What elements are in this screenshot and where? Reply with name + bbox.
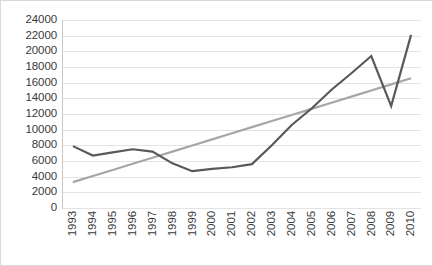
x-axis-tick-label: 1997 [147, 211, 159, 236]
x-axis-tick-label: 2007 [346, 211, 358, 236]
y-axis-tick-label: 10000 [26, 124, 57, 136]
x-axis-tick-label: 1996 [127, 211, 139, 236]
x-axis-tick-label: 2004 [286, 211, 298, 236]
y-axis-tick-label: 2000 [32, 187, 57, 199]
x-axis-tick: 2007 [344, 211, 358, 261]
gridline [63, 208, 421, 209]
x-axis-tick: 1995 [106, 211, 120, 261]
x-axis-tick: 2010 [404, 211, 418, 261]
x-axis-tick: 2002 [245, 211, 259, 261]
y-axis-tick-label: 20000 [26, 46, 57, 58]
x-axis-tick: 1999 [185, 211, 199, 261]
x-axis-tick: 2003 [265, 211, 279, 261]
y-axis-tick-label: 14000 [26, 93, 57, 105]
y-axis-tick-label: 0 [51, 202, 57, 214]
x-axis-tick-label: 2008 [366, 211, 378, 236]
x-axis-tick-label: 2005 [306, 211, 318, 236]
series-layer [63, 20, 421, 208]
x-axis-tick: 1997 [146, 211, 160, 261]
x-axis-tick: 1996 [126, 211, 140, 261]
x-axis-tick-label: 1995 [107, 211, 119, 236]
y-axis-tick-label: 6000 [32, 155, 57, 167]
x-axis-tick-label: 1994 [87, 211, 99, 236]
y-axis-tick-label: 16000 [26, 77, 57, 89]
y-axis-tick-label: 18000 [26, 61, 57, 73]
y-axis: 2400022000200001800016000140001200010000… [1, 20, 57, 208]
x-axis-tick-label: 2002 [246, 211, 258, 236]
x-axis-tick-label: 2006 [326, 211, 338, 236]
y-axis-tick-label: 4000 [32, 171, 57, 183]
y-axis-tick-label: 12000 [26, 108, 57, 120]
x-axis-tick: 2000 [205, 211, 219, 261]
x-axis-tick: 2005 [305, 211, 319, 261]
x-axis-tick: 1993 [66, 211, 80, 261]
x-axis-tick: 2008 [364, 211, 378, 261]
chart-container: 2400022000200001800016000140001200010000… [0, 0, 433, 266]
x-axis-tick: 1994 [86, 211, 100, 261]
y-axis-tick-label: 8000 [32, 140, 57, 152]
y-axis-tick-label: 24000 [26, 14, 57, 26]
y-axis-tick-label: 22000 [26, 30, 57, 42]
x-axis-tick: 2004 [285, 211, 299, 261]
x-axis-tick: 2001 [225, 211, 239, 261]
x-axis-tick-label: 1993 [67, 211, 79, 236]
x-axis-tick: 1998 [165, 211, 179, 261]
x-axis-tick: 2006 [325, 211, 339, 261]
data-series-line [73, 35, 411, 171]
x-axis-tick-label: 2001 [226, 211, 238, 236]
x-axis-tick-label: 2010 [405, 211, 417, 236]
x-axis-tick-label: 2003 [266, 211, 278, 236]
x-axis-tick-label: 1998 [167, 211, 179, 236]
x-axis-tick-label: 1999 [187, 211, 199, 236]
x-axis-tick-label: 2000 [206, 211, 218, 236]
x-axis-tick-label: 2009 [385, 211, 397, 236]
x-axis: 1993199419951996199719981999200020012002… [63, 211, 421, 265]
plot-area [63, 20, 421, 208]
x-axis-tick: 2009 [384, 211, 398, 261]
